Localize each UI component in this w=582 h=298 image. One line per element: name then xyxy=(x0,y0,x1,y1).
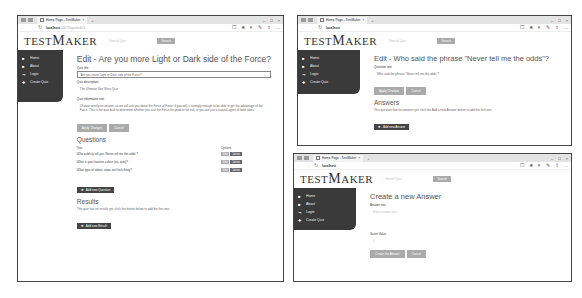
url-field[interactable]: localhost:40079/quiz/edit/1 xyxy=(46,26,85,30)
question-text-input[interactable]: Who said the phrase "Never tell me the o… xyxy=(374,70,559,78)
minimize-button[interactable]: – xyxy=(551,18,553,23)
testmaker-logo[interactable]: TESTMAKER xyxy=(300,171,373,187)
more-icon[interactable]: … xyxy=(564,25,569,30)
search-input[interactable]: Search Quiz xyxy=(107,38,147,44)
question-text[interactable]: What type of robots stops ion/ lock thin… xyxy=(77,166,221,174)
hub-icon[interactable]: ≡ xyxy=(538,25,541,30)
cancel-button[interactable]: Cancel xyxy=(407,250,426,258)
browser-tab[interactable]: Home Page - TestMaker × xyxy=(313,155,363,162)
sidebar-item-about[interactable]: ■About xyxy=(22,62,63,70)
score-value-input[interactable]: 0 xyxy=(370,237,559,245)
search-button[interactable]: Search xyxy=(437,38,455,44)
close-tab-icon[interactable]: × xyxy=(358,156,360,160)
new-tab-button[interactable]: + xyxy=(371,18,373,23)
reading-view-icon[interactable]: ☐ xyxy=(520,25,524,30)
sidebar-item-login[interactable]: ⇥Login xyxy=(22,70,63,78)
more-icon[interactable]: … xyxy=(276,25,281,30)
add-answer-button[interactable]: ✚Add new Answer xyxy=(374,124,409,130)
question-text[interactable]: Who publicly tell you 'Never tell me the… xyxy=(77,150,221,158)
sidebar-item-create-quiz[interactable]: ✚Create Quiz xyxy=(298,216,356,224)
create-answer-button[interactable]: Create the Answer xyxy=(370,250,405,258)
sidebar-item-about[interactable]: ■About xyxy=(302,62,360,70)
sidebar-item-home[interactable]: ■Home xyxy=(22,54,63,62)
search-button[interactable]: Search xyxy=(157,38,175,44)
notes-icon[interactable]: ✎ xyxy=(546,25,550,30)
close-window-button[interactable]: × xyxy=(278,18,280,23)
quiz-description-input[interactable]: The Ultimate Star Wars Quiz xyxy=(77,85,271,93)
notes-icon[interactable]: ✎ xyxy=(258,25,262,30)
delete-question-button[interactable]: Delete xyxy=(230,152,242,156)
favorite-star-icon[interactable]: ★ xyxy=(529,25,533,30)
question-text[interactable]: What is your favorite colour (no, wait)? xyxy=(77,158,221,166)
apply-changes-button[interactable]: Apply Changes xyxy=(77,124,107,132)
maximize-button[interactable]: □ xyxy=(558,156,560,161)
back-icon[interactable]: ← xyxy=(297,163,302,168)
sidebar-item-login[interactable]: ⇥Login xyxy=(302,70,360,78)
share-icon[interactable]: ⇧ xyxy=(555,163,559,168)
sidebar-item-create-quiz[interactable]: ✚Create Quiz xyxy=(302,78,360,86)
login-icon: ⇥ xyxy=(22,72,27,77)
forward-icon[interactable]: → xyxy=(306,163,311,168)
reading-view-icon[interactable]: ☐ xyxy=(520,163,524,168)
apply-changes-button[interactable]: Apply Changes xyxy=(374,87,404,95)
notes-icon[interactable]: ✎ xyxy=(546,163,550,168)
hub-icon[interactable]: ≡ xyxy=(538,163,541,168)
close-tab-icon[interactable]: × xyxy=(82,18,84,22)
forward-icon[interactable]: → xyxy=(310,25,315,30)
delete-question-button[interactable]: Delete xyxy=(230,160,242,164)
sidebar-item-home[interactable]: ■Home xyxy=(298,192,356,200)
maximize-button[interactable]: □ xyxy=(270,18,272,23)
browser-tab[interactable]: Home Page - TestMaker × xyxy=(37,17,87,24)
favorite-star-icon[interactable]: ★ xyxy=(241,25,245,30)
url-field[interactable]: localhost xyxy=(322,164,336,168)
cancel-button[interactable]: Cancel xyxy=(109,124,128,132)
reading-view-icon[interactable]: ☐ xyxy=(232,25,236,30)
minimize-button[interactable]: – xyxy=(263,18,265,23)
forward-icon[interactable]: → xyxy=(30,25,35,30)
edit-question-button[interactable]: Edit xyxy=(221,160,229,164)
sidebar-item-about[interactable]: ■About xyxy=(298,200,356,208)
tab-actions-icon[interactable] xyxy=(21,18,26,22)
testmaker-logo[interactable]: TESTMAKER xyxy=(24,33,97,49)
more-icon[interactable]: … xyxy=(564,163,569,168)
quiz-title-input[interactable]: Are you more Light or Dark side of the F… xyxy=(77,71,271,78)
share-icon[interactable]: ⇧ xyxy=(555,25,559,30)
add-result-button[interactable]: ✚Add new Result xyxy=(77,223,111,229)
browser-tab[interactable]: Home Page - TestMaker × xyxy=(317,17,367,24)
sidebar-item-home[interactable]: ■Home xyxy=(302,54,360,62)
delete-question-button[interactable]: Delete xyxy=(230,168,242,172)
new-tab-button[interactable]: + xyxy=(367,156,369,161)
close-window-button[interactable]: × xyxy=(566,156,568,161)
minimize-button[interactable]: – xyxy=(551,156,553,161)
quiz-text-input[interactable]: Choose wisely an answer, as we will ask … xyxy=(77,102,271,114)
refresh-icon[interactable]: ↻ xyxy=(38,25,42,30)
answer-text-input[interactable]: Enter answer text... xyxy=(370,208,559,228)
tab-sets-icon[interactable] xyxy=(308,18,313,22)
sidebar-item-create-quiz[interactable]: ✚Create Quiz xyxy=(22,78,63,86)
edit-question-button[interactable]: Edit xyxy=(221,168,229,172)
hub-icon[interactable]: ≡ xyxy=(250,25,253,30)
sidebar-item-login[interactable]: ⇥Login xyxy=(298,208,356,216)
edit-question-button[interactable]: Edit xyxy=(221,152,229,156)
add-question-button[interactable]: ✚Add new Question xyxy=(77,187,115,193)
back-icon[interactable]: ← xyxy=(21,25,26,30)
maximize-button[interactable]: □ xyxy=(558,18,560,23)
search-input[interactable]: Search Quiz xyxy=(383,176,423,182)
tab-actions-icon[interactable] xyxy=(301,18,306,22)
testmaker-logo[interactable]: TESTMAKER xyxy=(304,33,377,49)
url-field[interactable]: localhost xyxy=(326,26,340,30)
refresh-icon[interactable]: ↻ xyxy=(318,25,322,30)
tab-sets-icon[interactable] xyxy=(28,18,33,22)
favorite-star-icon[interactable]: ★ xyxy=(529,163,533,168)
back-icon[interactable]: ← xyxy=(301,25,306,30)
search-button[interactable]: Search xyxy=(433,176,451,182)
new-tab-button[interactable]: + xyxy=(91,18,93,23)
close-window-button[interactable]: × xyxy=(566,18,568,23)
tab-actions-icon[interactable] xyxy=(297,156,302,160)
search-input[interactable]: Search Quiz xyxy=(387,38,427,44)
close-tab-icon[interactable]: × xyxy=(362,18,364,22)
share-icon[interactable]: ⇧ xyxy=(267,25,271,30)
refresh-icon[interactable]: ↻ xyxy=(314,163,318,168)
cancel-button[interactable]: Cancel xyxy=(406,87,425,95)
tab-sets-icon[interactable] xyxy=(304,156,309,160)
